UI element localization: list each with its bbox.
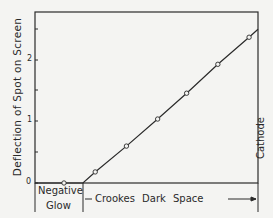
data-point — [124, 144, 128, 148]
data-line — [35, 29, 258, 183]
cathode-label: Cathode — [255, 113, 267, 163]
data-point — [247, 35, 251, 39]
data-point — [216, 62, 220, 66]
y-axis-label: Deflection of Spot on Screen — [11, 17, 25, 177]
data-point — [155, 117, 159, 121]
y-tick-2: 2 — [27, 54, 32, 63]
negative-glow-label-line2: Glow — [46, 200, 71, 211]
y-tick-0: 0 — [26, 177, 31, 186]
data-point — [184, 91, 188, 95]
plot-frame — [35, 12, 258, 183]
y-tick-1: 1 — [27, 115, 32, 124]
negative-glow-label-line1: Negative — [38, 185, 83, 196]
data-markers — [62, 35, 251, 185]
data-point — [93, 170, 97, 174]
crookes-dark-space-label: Crookes Dark Space — [95, 193, 203, 204]
